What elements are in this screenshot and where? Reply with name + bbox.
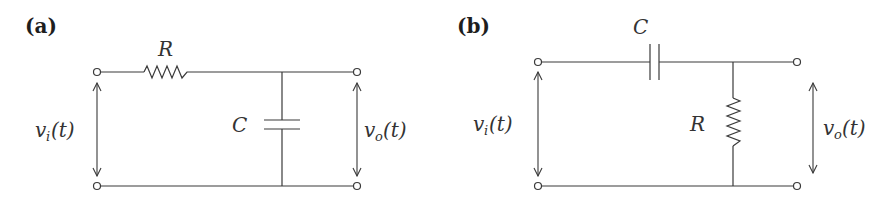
resistor-symbol-b [727, 98, 740, 146]
capacitor-label-a: C [232, 113, 247, 137]
svg-text:(t): (t) [842, 116, 866, 140]
input-terminal-top-b [535, 59, 542, 66]
panel-a: (a) R C v i (t) v o [25, 14, 407, 190]
resistor-label-b: R [689, 112, 705, 136]
input-terminal-top-a [94, 69, 101, 76]
resistor-symbol-a [144, 66, 191, 78]
output-terminal-top-a [354, 69, 361, 76]
input-terminal-bottom-a [94, 183, 101, 190]
output-voltage-label-a: v o (t) [364, 118, 407, 144]
input-voltage-label-a: v i (t) [35, 118, 75, 144]
output-voltage-label-b: v o (t) [823, 116, 866, 142]
output-terminal-top-b [794, 59, 801, 66]
circuit-figure: (a) R C v i (t) v o [0, 0, 895, 202]
input-voltage-label-b: v i (t) [473, 112, 513, 138]
svg-text:i: i [484, 123, 488, 138]
panel-label-a: (a) [25, 14, 57, 38]
panel-label-b: (b) [457, 14, 490, 38]
panel-b: (b) C R v i (t) v o [457, 14, 866, 190]
svg-text:(t): (t) [51, 118, 75, 142]
svg-text:o: o [834, 127, 842, 142]
capacitor-label-b: C [633, 15, 648, 39]
svg-text:(t): (t) [383, 118, 407, 142]
resistor-label-a: R [157, 37, 173, 61]
svg-text:(t): (t) [489, 112, 513, 136]
output-terminal-bottom-b [794, 183, 801, 190]
input-terminal-bottom-b [535, 183, 542, 190]
svg-text:i: i [46, 129, 50, 144]
output-terminal-bottom-a [354, 183, 361, 190]
svg-text:o: o [375, 129, 383, 144]
